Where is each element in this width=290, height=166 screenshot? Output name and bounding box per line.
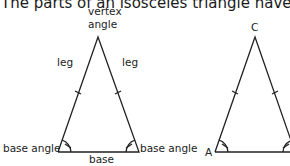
base-label: base [89, 154, 114, 165]
base-angle-arc-left [62, 140, 71, 152]
labeled-isosceles-triangle [58, 37, 139, 152]
base-angle-arc-right [126, 140, 135, 152]
triangle-outline [58, 37, 139, 152]
leg-label-right: leg [122, 57, 138, 68]
triangle-outline-2 [215, 37, 290, 152]
leg-label-left: leg [57, 57, 73, 68]
vertex-angle-label-line1: vertex [88, 6, 122, 17]
base-angle-label-left: base angle [3, 143, 61, 154]
vertex-a-label: A [205, 147, 212, 158]
lettered-isosceles-triangle [215, 37, 290, 152]
vertex-c-label: C [251, 22, 258, 33]
vertex-angle-label-line2: angle [88, 19, 117, 30]
base-angle-label-right: base angle [140, 143, 198, 154]
base-angle-arc-b [283, 141, 290, 152]
base-angle-arc-a [219, 140, 228, 152]
